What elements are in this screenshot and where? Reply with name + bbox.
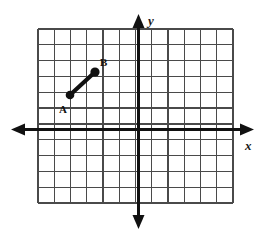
point-b-label: B: [100, 57, 107, 68]
coordinate-plane-svg: [0, 0, 270, 245]
point-a-label: A: [59, 104, 67, 115]
point-b-marker: [90, 67, 99, 76]
y-axis-label: y: [148, 14, 154, 27]
grid-lines: [38, 29, 233, 203]
y-axis-up-arrow-icon: [133, 14, 145, 28]
x-axis-right-arrow-icon: [240, 124, 254, 136]
segment-ab-line: [70, 72, 95, 95]
point-a-marker: [66, 91, 75, 100]
x-axis-left-arrow-icon: [11, 124, 25, 136]
y-axis: [133, 14, 145, 229]
graph-figure: y x A B: [0, 0, 270, 245]
y-axis-down-arrow-icon: [133, 215, 145, 229]
x-axis-label: x: [245, 139, 252, 152]
x-axis: [11, 124, 254, 136]
